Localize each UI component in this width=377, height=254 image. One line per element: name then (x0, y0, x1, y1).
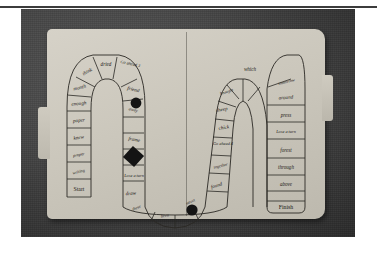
cell-tomorrow: tomorrow (278, 77, 296, 86)
cell-found: found (210, 180, 223, 189)
cell-forest: forest (280, 147, 292, 153)
cell-friend: friend (127, 85, 141, 94)
cell-above: above (280, 181, 293, 187)
figure-caption-area (21, 240, 355, 250)
cell-knew: knew (73, 133, 85, 140)
cell-enough: enough (71, 99, 87, 107)
game-token-circle-street[interactable] (186, 204, 197, 215)
cell-paper: paper (72, 116, 85, 123)
game-path: Start writing proper knew paper enough m… (47, 29, 325, 219)
cell-lose-a-turn-right: Lose a turn (275, 129, 296, 134)
cell-think: think (81, 66, 93, 76)
document-page: Start writing proper knew paper enough m… (0, 0, 377, 254)
cell-chick: chick (218, 123, 230, 131)
cell-through: through (278, 164, 294, 170)
cell-go-ahead-4: Go ahead 4 (213, 141, 234, 146)
cell-around: around (278, 93, 293, 100)
file-folder-board: Start writing proper knew paper enough m… (47, 29, 325, 219)
left-column-track (67, 55, 145, 207)
cell-press: press (280, 112, 292, 118)
cell-writing: writing (72, 167, 86, 175)
cell-proper: proper (72, 151, 86, 158)
cell-month: month (73, 82, 87, 91)
cell-brought: brought (219, 87, 234, 96)
board-game-photograph: Start writing proper knew paper enough m… (21, 9, 355, 237)
cell-draw: draw (125, 190, 136, 197)
cell-these: these (131, 204, 141, 212)
cell-go-ahead-3: Go ahead 3 (120, 59, 141, 68)
cell-start: Start (74, 186, 85, 192)
header-rule (0, 6, 377, 8)
cell-which: which (244, 66, 257, 72)
cell-together: together (213, 161, 228, 169)
game-token-circle-away[interactable] (131, 98, 142, 109)
cell-sheep: sheep (215, 105, 228, 113)
cell-frame: frame (128, 135, 141, 143)
cell-been: been (161, 213, 170, 219)
cell-dried: dried (101, 61, 112, 67)
cell-finish: Finish (279, 204, 294, 210)
cell-lose-a-turn-left: Lose a turn (123, 173, 144, 178)
